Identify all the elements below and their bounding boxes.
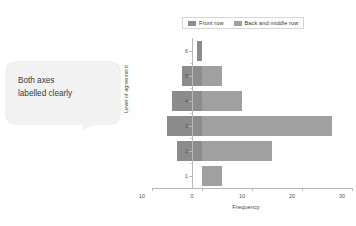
y-tick-2 [189, 151, 192, 152]
y-tick-minor-2 [190, 138, 192, 139]
y-tick-minor-1 [190, 163, 192, 164]
bar-group [152, 38, 352, 188]
legend-swatch-back-and-middle-row [234, 21, 242, 26]
x-tick-label-3: 20 [282, 193, 302, 199]
y-tick-label-4: 4 [180, 98, 188, 104]
bar-back-and-middle-row-level-2 [202, 141, 272, 161]
y-axis-line [192, 38, 193, 189]
y-tick-label-5: 5 [180, 73, 188, 79]
x-tick-2 [252, 188, 253, 191]
bar-back-and-middle-row-level-4 [202, 91, 242, 111]
chart-legend: Front row Back and middle row [182, 17, 304, 29]
y-tick-label-1: 1 [180, 173, 188, 179]
y-tick-minor-4 [190, 88, 192, 89]
y-axis-label: Level of agreement [123, 65, 129, 113]
y-tick-4 [189, 101, 192, 102]
figure-root: Both axes labelled clearly Front row Bac… [0, 0, 356, 226]
bar-front-row-level-6 [197, 41, 202, 61]
x-tick-1 [202, 188, 203, 191]
y-tick-label-6: 6 [180, 48, 188, 54]
x-tick-3 [302, 188, 303, 191]
x-tick-label-2: 10 [232, 193, 252, 199]
x-tick-label-4: 30 [332, 193, 352, 199]
y-tick-label-2: 2 [180, 148, 188, 154]
y-tick-1 [189, 176, 192, 177]
y-tick-label-3: 3 [180, 123, 188, 129]
x-tick-label-0: 10 [132, 193, 152, 199]
y-tick-minor-5 [190, 63, 192, 64]
legend-item-back-and-middle-row: Back and middle row [234, 20, 299, 26]
plot-area [152, 38, 352, 188]
x-tick-label-1: 0 [182, 193, 202, 199]
bar-back-and-middle-row-level-5 [202, 66, 222, 86]
annotation-bubble-tail [82, 112, 103, 135]
bar-back-and-middle-row-level-1 [202, 166, 222, 186]
legend-label-front-row: Front row [199, 20, 224, 26]
annotation-text: Both axes labelled clearly [18, 74, 112, 100]
legend-item-front-row: Front row [188, 20, 224, 26]
annotation-callout: Both axes labelled clearly [6, 62, 120, 124]
bar-back-and-middle-row-level-3 [202, 116, 332, 136]
legend-label-back-and-middle-row: Back and middle row [245, 20, 299, 26]
y-tick-minor-3 [190, 113, 192, 114]
x-tick-0 [152, 188, 153, 191]
legend-swatch-front-row [188, 21, 196, 26]
y-tick-3 [189, 126, 192, 127]
y-tick-5 [189, 76, 192, 77]
y-tick-6 [189, 51, 192, 52]
x-tick-4 [352, 188, 353, 191]
x-axis-label: Frequency [140, 204, 352, 210]
chart: Front row Back and middle row 100102030 … [140, 8, 352, 218]
